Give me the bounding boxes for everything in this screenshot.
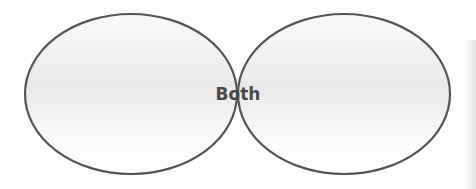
intersection-label: Both [200,84,276,104]
